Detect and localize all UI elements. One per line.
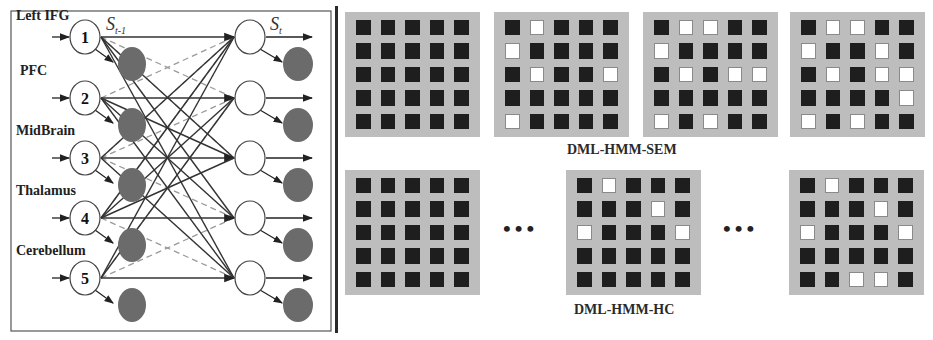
inactive-connection-cell bbox=[603, 43, 618, 58]
observed-node-prev bbox=[118, 168, 146, 202]
inactive-connection-cell bbox=[899, 114, 914, 129]
inactive-connection-cell bbox=[849, 248, 864, 263]
inactive-connection-cell bbox=[430, 225, 445, 240]
active-connection-cell bbox=[826, 20, 841, 35]
inactive-connection-cell bbox=[801, 20, 816, 35]
inactive-connection-cell bbox=[577, 178, 592, 193]
inactive-connection-cell bbox=[874, 178, 889, 193]
inactive-connection-cell bbox=[675, 201, 690, 216]
inactive-connection-cell bbox=[430, 67, 445, 82]
inactive-connection-cell bbox=[875, 20, 890, 35]
inactive-connection-cell bbox=[381, 248, 396, 263]
inactive-connection-cell bbox=[875, 90, 890, 105]
active-connection-cell bbox=[850, 20, 865, 35]
inactive-connection-cell bbox=[530, 114, 545, 129]
inactive-connection-cell bbox=[356, 272, 371, 287]
inactive-connection-cell bbox=[602, 248, 617, 263]
inactive-connection-cell bbox=[801, 67, 816, 82]
inactive-connection-cell bbox=[626, 225, 641, 240]
inactive-connection-cell bbox=[405, 178, 420, 193]
inactive-connection-cell bbox=[752, 90, 767, 105]
active-connection-cell bbox=[875, 43, 890, 58]
inactive-connection-cell bbox=[454, 90, 469, 105]
inactive-connection-cell bbox=[849, 201, 864, 216]
active-connection-cell bbox=[875, 67, 890, 82]
inactive-connection-cell bbox=[454, 201, 469, 216]
inactive-connection-cell bbox=[703, 90, 718, 105]
inactive-connection-cell bbox=[454, 20, 469, 35]
inactive-connection-cell bbox=[875, 114, 890, 129]
inactive-connection-cell bbox=[381, 272, 396, 287]
inactive-connection-cell bbox=[825, 272, 840, 287]
inactive-connection-cell bbox=[381, 67, 396, 82]
inactive-connection-cell bbox=[825, 225, 840, 240]
inactive-connection-cell bbox=[579, 67, 594, 82]
active-connection-cell bbox=[505, 114, 520, 129]
active-connection-cell bbox=[654, 114, 669, 129]
inactive-connection-cell bbox=[554, 43, 569, 58]
inactive-connection-cell bbox=[356, 201, 371, 216]
inactive-connection-cell bbox=[626, 272, 641, 287]
active-connection-cell bbox=[654, 43, 669, 58]
hidden-node-curr bbox=[235, 81, 265, 115]
inactive-connection-cell bbox=[454, 178, 469, 193]
observed-node-curr bbox=[283, 168, 313, 202]
inactive-connection-cell bbox=[752, 20, 767, 35]
hidden-node-curr bbox=[235, 201, 265, 235]
inactive-connection-cell bbox=[752, 114, 767, 129]
inactive-connection-cell bbox=[850, 67, 865, 82]
inactive-connection-cell bbox=[898, 178, 913, 193]
inactive-connection-cell bbox=[826, 43, 841, 58]
inactive-connection-cell bbox=[430, 248, 445, 263]
inactive-connection-cell bbox=[405, 272, 420, 287]
inactive-connection-cell bbox=[654, 90, 669, 105]
inactive-connection-cell bbox=[874, 248, 889, 263]
inactive-connection-cell bbox=[381, 225, 396, 240]
inactive-connection-cell bbox=[626, 248, 641, 263]
inactive-connection-cell bbox=[381, 178, 396, 193]
inactive-connection-cell bbox=[651, 248, 666, 263]
observed-node-curr bbox=[283, 47, 313, 81]
inactive-connection-cell bbox=[454, 225, 469, 240]
inactive-connection-cell bbox=[356, 67, 371, 82]
active-connection-cell bbox=[530, 67, 545, 82]
inactive-connection-cell bbox=[825, 248, 840, 263]
dbn-network-diagram: 1Left IFG2PFC3MidBrain4Thalamus5Cerebell… bbox=[0, 0, 335, 340]
hidden-node-curr bbox=[235, 141, 265, 175]
active-connection-cell bbox=[530, 20, 545, 35]
inactive-connection-cell bbox=[898, 272, 913, 287]
region-label: PFC bbox=[20, 63, 47, 78]
sem-matrix-1 bbox=[345, 12, 480, 137]
inactive-connection-cell bbox=[381, 90, 396, 105]
observed-node-prev bbox=[118, 228, 146, 262]
hidden-node-curr bbox=[235, 20, 265, 54]
inactive-connection-cell bbox=[381, 20, 396, 35]
inactive-connection-cell bbox=[898, 248, 913, 263]
active-connection-cell bbox=[603, 67, 618, 82]
inactive-connection-cell bbox=[405, 201, 420, 216]
inactive-connection-cell bbox=[505, 20, 520, 35]
inactive-connection-cell bbox=[800, 272, 815, 287]
inactive-connection-cell bbox=[530, 90, 545, 105]
inactive-connection-cell bbox=[405, 90, 420, 105]
inactive-connection-cell bbox=[405, 43, 420, 58]
observed-node-curr bbox=[283, 108, 313, 142]
sem-matrix-3 bbox=[643, 12, 778, 137]
inactive-connection-cell bbox=[654, 20, 669, 35]
inactive-connection-cell bbox=[430, 43, 445, 58]
region-label: Cerebellum bbox=[16, 243, 86, 258]
inactive-connection-cell bbox=[826, 114, 841, 129]
inactive-connection-cell bbox=[554, 90, 569, 105]
active-connection-cell bbox=[728, 67, 743, 82]
inactive-connection-cell bbox=[675, 178, 690, 193]
inactive-connection-cell bbox=[356, 114, 371, 129]
inactive-connection-cell bbox=[679, 90, 694, 105]
inactive-connection-cell bbox=[703, 67, 718, 82]
active-connection-cell bbox=[651, 201, 666, 216]
inactive-connection-cell bbox=[850, 90, 865, 105]
hc-matrix-1 bbox=[345, 170, 480, 295]
inactive-connection-cell bbox=[800, 178, 815, 193]
inactive-connection-cell bbox=[826, 90, 841, 105]
inactive-connection-cell bbox=[898, 201, 913, 216]
observed-node-curr bbox=[283, 228, 313, 262]
